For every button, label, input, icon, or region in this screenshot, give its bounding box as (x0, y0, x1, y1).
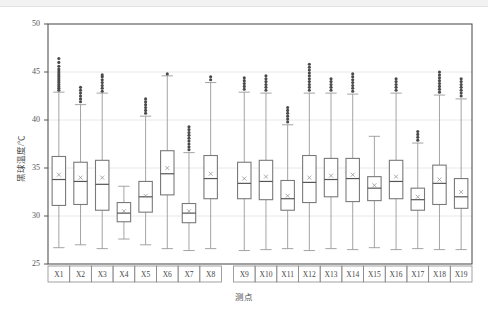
y-tick-label: 25 (12, 259, 40, 268)
outlier-point (101, 87, 104, 90)
outlier-point (438, 70, 441, 73)
outlier-point (351, 90, 354, 93)
outlier-point (329, 77, 332, 80)
box-iqr (238, 162, 251, 198)
outlier-point (144, 97, 147, 100)
outlier-point (286, 106, 289, 109)
outlier-point (286, 112, 289, 115)
outlier-point (144, 103, 147, 106)
x-tick-label-X18: X18 (429, 270, 451, 279)
boxplot-figure: 黑球温度/℃ 测点 253035404550X1X2X3X4X5X6X7X8X9… (0, 0, 488, 314)
y-axis-title: 黑球温度/℃ (14, 135, 26, 182)
outlier-point (308, 89, 311, 92)
box-iqr (161, 151, 174, 195)
outlier-point (101, 73, 104, 76)
y-tick-label: 50 (12, 19, 40, 28)
box-iqr (117, 203, 130, 222)
outlier-point (416, 133, 419, 136)
y-tick-label: 45 (12, 67, 40, 76)
outlier-point (308, 77, 311, 80)
outlier-point (438, 76, 441, 79)
x-tick-label-X12: X12 (298, 270, 320, 279)
outlier-point (438, 73, 441, 76)
outlier-point (395, 80, 398, 83)
outlier-point (57, 57, 60, 60)
box-plot-X17 (411, 130, 424, 249)
box-plot-X11 (281, 106, 294, 249)
outlier-point (187, 134, 190, 137)
box-plot-X3 (95, 73, 108, 248)
box-plot-X1 (52, 57, 65, 248)
box-plot-X12 (303, 63, 316, 251)
x-tick-label-X16: X16 (385, 270, 407, 279)
y-tick-label: 40 (12, 115, 40, 124)
outlier-point (101, 81, 104, 84)
outlier-point (243, 88, 246, 91)
outlier-point (286, 117, 289, 120)
outlier-point (243, 85, 246, 88)
outlier-point (286, 109, 289, 112)
outlier-point (308, 83, 311, 86)
outlier-point (460, 94, 463, 97)
outlier-point (308, 71, 311, 74)
outlier-point (209, 78, 212, 81)
outlier-point (416, 139, 419, 142)
outlier-point (308, 63, 311, 66)
box-iqr (95, 160, 108, 210)
box-iqr (389, 160, 402, 198)
box-iqr (52, 156, 65, 205)
outlier-point (460, 86, 463, 89)
outlier-point (144, 109, 147, 112)
box-plot-X10 (259, 74, 272, 249)
box-iqr (324, 158, 337, 196)
box-iqr (346, 158, 359, 201)
outlier-point (264, 77, 267, 80)
outlier-point (187, 125, 190, 128)
outlier-point (187, 128, 190, 131)
outlier-point (144, 100, 147, 103)
outlier-point (416, 130, 419, 133)
outlier-point (264, 86, 267, 89)
x-tick-label-X14: X14 (342, 270, 364, 279)
outlier-point (308, 80, 311, 83)
outlier-point (79, 89, 82, 92)
x-tick-label-X19: X19 (450, 270, 472, 279)
outlier-point (101, 78, 104, 81)
outlier-point (460, 89, 463, 92)
outlier-point (101, 84, 104, 87)
outlier-point (264, 89, 267, 92)
outlier-point (79, 97, 82, 100)
outlier-point (308, 74, 311, 77)
x-tick-label-X11: X11 (277, 270, 299, 279)
outlier-point (264, 83, 267, 86)
box-iqr (259, 160, 272, 199)
x-tick-label-X9: X9 (233, 270, 255, 279)
outlier-point (329, 83, 332, 86)
outlier-point (438, 91, 441, 94)
outlier-point (460, 83, 463, 86)
box-plot-X16 (389, 77, 402, 249)
outlier-point (351, 72, 354, 75)
x-tick-label-X15: X15 (364, 270, 386, 279)
outlier-point (243, 82, 246, 85)
outlier-point (286, 115, 289, 118)
box-iqr (204, 156, 217, 199)
outlier-point (329, 89, 332, 92)
outlier-point (264, 80, 267, 83)
outlier-point (351, 84, 354, 87)
x-tick-label-X10: X10 (255, 270, 277, 279)
outlier-point (57, 65, 60, 68)
outlier-point (329, 80, 332, 83)
outlier-point (79, 100, 82, 103)
box-plot-X6 (161, 72, 174, 248)
outlier-point (79, 86, 82, 89)
outlier-point (308, 86, 311, 89)
x-tick-label-X2: X2 (70, 270, 92, 279)
box-plot-X18 (433, 70, 446, 249)
outlier-point (187, 131, 190, 134)
outlier-point (243, 79, 246, 82)
box-plot-X13 (324, 77, 337, 248)
box-plot-X4 (117, 186, 130, 239)
x-tick-label-X6: X6 (156, 270, 178, 279)
x-tick-label-X3: X3 (91, 270, 113, 279)
